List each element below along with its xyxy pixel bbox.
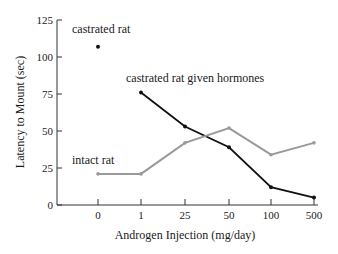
series-line <box>141 93 314 198</box>
y-tick-label: 50 <box>42 125 54 137</box>
data-point <box>269 185 273 189</box>
data-point <box>96 172 100 176</box>
y-axis: 0255075100125 <box>37 14 63 211</box>
x-tick-label: 100 <box>263 209 280 221</box>
y-tick-label: 25 <box>42 162 54 174</box>
y-tick-label: 75 <box>42 88 54 100</box>
y-tick-label: 125 <box>37 14 54 26</box>
x-tick-label: 25 <box>180 209 192 221</box>
data-point <box>312 141 316 145</box>
x-tick-label: 1 <box>138 209 144 221</box>
x-axis: 012550100500 <box>57 199 323 221</box>
series-layer <box>96 45 316 200</box>
line-chart: 0255075100125 012550100500 castrated rat… <box>0 0 338 254</box>
data-point <box>227 126 231 130</box>
x-tick-label: 500 <box>306 209 323 221</box>
data-point <box>183 125 187 129</box>
y-axis-label: Latency to Mount (sec) <box>13 56 27 168</box>
data-point <box>227 145 231 149</box>
x-axis-label: Androgen Injection (mg/day) <box>115 228 256 242</box>
x-tick-label: 50 <box>224 209 236 221</box>
data-point <box>312 196 316 200</box>
annotation-layer: castrated ratcastrated rat given hormone… <box>72 22 265 167</box>
x-tick-label: 0 <box>95 209 101 221</box>
y-tick-label: 100 <box>37 51 54 63</box>
series-label: castrated rat given hormones <box>126 71 265 85</box>
data-point <box>269 153 273 157</box>
data-point <box>183 141 187 145</box>
data-point <box>139 172 143 176</box>
series-label: intact rat <box>72 153 115 167</box>
series-label: castrated rat <box>72 22 131 36</box>
data-point <box>139 91 143 95</box>
data-point <box>96 45 100 49</box>
y-tick-label: 0 <box>48 199 54 211</box>
series-line <box>98 128 314 174</box>
